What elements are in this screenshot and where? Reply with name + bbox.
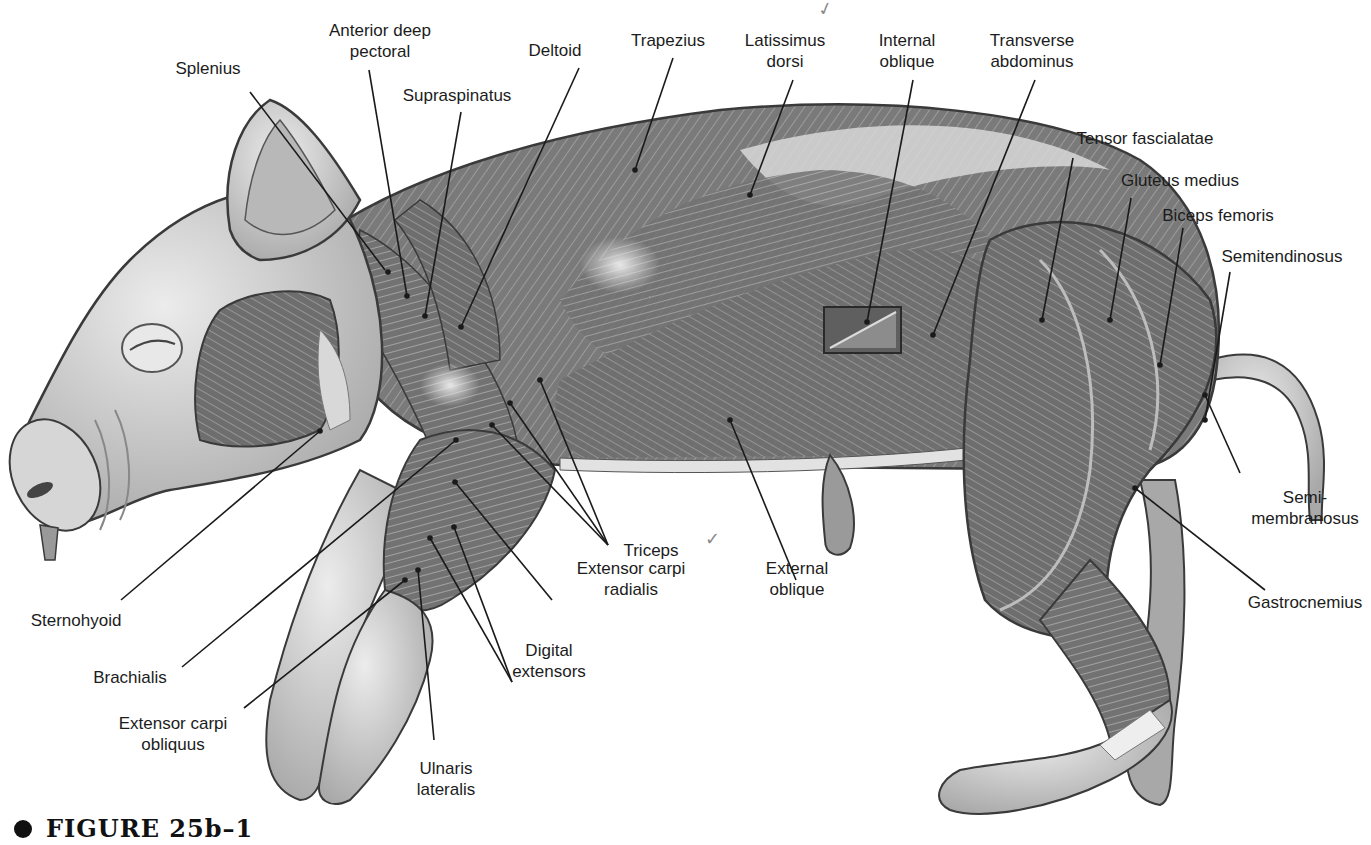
cheek-muscle bbox=[195, 291, 339, 446]
leader-dot-latissimus-dorsi bbox=[747, 192, 753, 198]
caption-bullet-icon bbox=[14, 820, 32, 838]
leader-dot-gluteus-medius bbox=[1107, 317, 1113, 323]
leader-dot-digital-extensors bbox=[451, 524, 457, 530]
leader-dot-deltoid bbox=[458, 324, 464, 330]
umbilical-stub bbox=[823, 455, 854, 555]
leader-dot-brachialis bbox=[453, 437, 459, 443]
figure-caption: FIGURE 25b–1 bbox=[14, 814, 253, 843]
leader-dot-biceps-femoris bbox=[1157, 362, 1163, 368]
label-transverse-abdominus: Transverseabdominus bbox=[990, 30, 1074, 72]
leader-dot-triceps bbox=[537, 377, 543, 383]
leader-dot-external-oblique bbox=[727, 417, 733, 423]
label-splenius: Splenius bbox=[175, 58, 240, 79]
leader-dot-ulnaris-lateralis bbox=[415, 567, 421, 573]
leader-dot-trapezius bbox=[632, 167, 638, 173]
label-deltoid: Deltoid bbox=[529, 40, 582, 61]
leader-dot-triceps bbox=[507, 400, 513, 406]
figure-stage: SpleniusAnterior deeppectoralSupraspinat… bbox=[0, 0, 1371, 845]
label-gluteus-medius: Gluteus medius bbox=[1121, 170, 1239, 191]
label-ulnaris-lateralis: Ulnarislateralis bbox=[417, 758, 476, 800]
leader-dot-supraspinatus bbox=[422, 313, 428, 319]
leader-dot-splenius bbox=[385, 269, 391, 275]
label-latissimus-dorsi: Latissimusdorsi bbox=[745, 30, 825, 72]
leader-dot-gastrocnemius bbox=[1132, 485, 1138, 491]
label-trapezius: Trapezius bbox=[631, 30, 705, 51]
label-external-oblique: Externaloblique bbox=[766, 558, 828, 600]
label-brachialis: Brachialis bbox=[93, 667, 167, 688]
leader-dot-transverse-abdominus bbox=[930, 332, 936, 338]
triceps-checkmark-icon: ✓ bbox=[705, 528, 720, 550]
leader-dot-anterior-deep-pectoral bbox=[404, 293, 410, 299]
label-semitendinosus: Semitendinosus bbox=[1222, 246, 1343, 267]
leader-dot-semimembranosus bbox=[1202, 392, 1208, 398]
label-biceps-femoris: Biceps femoris bbox=[1162, 205, 1273, 226]
leader-dot-triceps bbox=[489, 422, 495, 428]
leader-dot-semitendinosus bbox=[1202, 417, 1208, 423]
leader-dot-tensor-fascialatae bbox=[1039, 317, 1045, 323]
leader-dot-digital-extensors bbox=[427, 535, 433, 541]
label-gastrocnemius: Gastrocnemius bbox=[1248, 592, 1362, 613]
leader-dot-extensor-carpi-obliquus bbox=[402, 577, 408, 583]
label-semimembranosus: Semi-membranosus bbox=[1251, 487, 1359, 529]
leader-dot-internal-oblique bbox=[864, 319, 870, 325]
label-internal-oblique: Internaloblique bbox=[879, 30, 936, 72]
label-tensor-fascialatae: Tensor fascialatae bbox=[1076, 128, 1213, 149]
leader-dot-sternohyoid bbox=[317, 428, 323, 434]
eye bbox=[122, 324, 182, 372]
leader-line-semimembranosus bbox=[1205, 395, 1240, 473]
label-extensor-carpi-obliquus: Extensor carpiobliquus bbox=[119, 713, 228, 755]
label-anterior-deep-pectoral: Anterior deeppectoral bbox=[329, 20, 431, 62]
near-foreleg-muscles bbox=[384, 430, 555, 611]
leader-dot-extensor-carpi-radialis bbox=[452, 479, 458, 485]
label-extensor-carpi-radialis: Extensor carpiradialis bbox=[577, 558, 686, 600]
label-digital-extensors: Digitalextensors bbox=[512, 640, 586, 682]
label-sternohyoid: Sternohyoid bbox=[31, 610, 122, 631]
label-supraspinatus: Supraspinatus bbox=[403, 85, 512, 106]
caption-text: FIGURE 25b–1 bbox=[46, 814, 253, 843]
